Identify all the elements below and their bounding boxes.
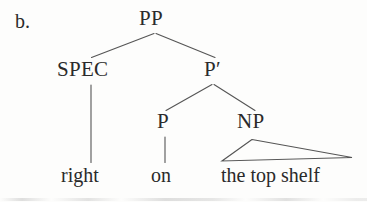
node-label-spec: SPEC	[57, 59, 108, 80]
node-label-p-bar: P′	[204, 59, 221, 80]
branch-pbar-p	[166, 85, 212, 111]
branch-pbar-np	[214, 85, 255, 111]
terminal-on: on	[151, 165, 171, 185]
node-label-pp: PP	[139, 8, 163, 29]
figure-canvas: b. PP SPEC P′ P NP right on the top shel…	[0, 0, 367, 202]
node-label-p: P	[157, 111, 169, 132]
np-triangle	[222, 140, 352, 162]
branch-pp-spec	[92, 34, 155, 58]
scan-artifact	[0, 198, 367, 201]
item-letter: b.	[15, 11, 30, 31]
node-label-np: NP	[237, 111, 264, 132]
terminal-the-top-shelf: the top shelf	[221, 165, 320, 185]
branch-pp-pbar	[156, 34, 215, 58]
terminal-right: right	[61, 165, 99, 185]
